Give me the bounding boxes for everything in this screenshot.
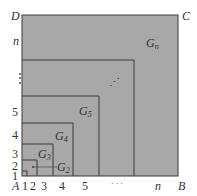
y-tick-3: 3: [12, 147, 18, 161]
g2-leader-dot: [32, 166, 34, 168]
y-tick-n: n: [13, 34, 19, 48]
x-tick-1: 1: [22, 179, 28, 193]
corner-d-label: D: [10, 9, 20, 23]
y-tick-ellipsis: ⋮: [14, 71, 26, 85]
x-tick-ellipsis: · · ·: [111, 179, 123, 188]
x-tick-2: 2: [30, 179, 36, 193]
nested-squares-diagram: D C A B 1 2 3 4 5 · · · n 1 2 3 4 5 ⋮ n …: [0, 0, 197, 196]
corner-b-label: B: [178, 179, 186, 193]
x-tick-n: n: [155, 179, 161, 193]
y-tick-2: 2: [12, 159, 18, 173]
y-tick-4: 4: [12, 128, 18, 142]
corner-c-label: C: [182, 9, 191, 23]
diagonal-ellipsis: ⋰: [109, 76, 120, 88]
x-tick-3: 3: [41, 179, 47, 193]
x-tick-5: 5: [82, 179, 88, 193]
y-tick-5: 5: [12, 105, 18, 119]
x-tick-4: 4: [59, 179, 65, 193]
